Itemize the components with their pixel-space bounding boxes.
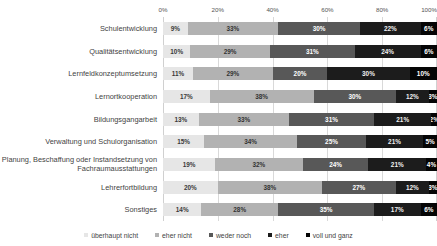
bar-segment: 21% (366, 135, 424, 148)
x-axis-tick-label: 40% (266, 6, 278, 13)
bar-segment: 30% (327, 67, 409, 80)
bar-segment: 29% (193, 67, 272, 80)
legend-swatch-icon (306, 233, 310, 237)
bar-segment: 21% (374, 113, 432, 126)
legend-swatch-icon (84, 233, 88, 237)
bar-row: 20%38%27%12%3% (163, 181, 437, 194)
bar-segment: 29% (190, 45, 269, 58)
bar-segment: 13% (163, 113, 199, 126)
legend-item[interactable]: eher (268, 232, 289, 239)
legend-label: überhaupt nicht (91, 232, 138, 239)
bar-segment: 34% (204, 135, 297, 148)
x-axis-tick-label: 60% (321, 6, 333, 13)
legend-swatch-icon (209, 233, 213, 237)
bar-segment: 24% (355, 45, 421, 58)
bar-segment: 6% (421, 22, 437, 35)
bar-segment: 33% (199, 113, 289, 126)
x-axis-tick-label: 100% (421, 6, 437, 13)
bar-segment: 5% (423, 135, 437, 148)
bar-segment: 9% (163, 22, 188, 35)
bar-segment: 31% (270, 45, 355, 58)
bar-segment: 17% (163, 90, 210, 103)
category-labels: SchulentwicklungQualitätsentwicklungLern… (0, 17, 160, 221)
bar-segment: 30% (314, 90, 396, 103)
category-label: Verwaltung und Schulorganisation (0, 137, 157, 146)
category-label: Lehrerfortbildung (0, 183, 157, 192)
bar-segment: 35% (278, 203, 374, 216)
bar-segment: 3% (429, 90, 437, 103)
category-label: Lernortkooperation (0, 92, 157, 101)
x-axis-tick-label: 80% (376, 6, 388, 13)
bar-segment: 28% (201, 203, 278, 216)
bar-row: 17%38%30%12%3% (163, 90, 437, 103)
legend-label: eher nicht (162, 232, 192, 239)
legend-swatch-icon (155, 233, 159, 237)
bar-row: 19%32%24%21%4% (163, 158, 437, 171)
bar-segment: 33% (188, 22, 278, 35)
bar-segment: 19% (163, 158, 215, 171)
bar-segment: 38% (218, 181, 322, 194)
bar-segment: 17% (374, 203, 421, 216)
legend-item[interactable]: voll und ganz (306, 232, 353, 239)
bar-row: 10%29%31%24%6% (163, 45, 437, 58)
bar-segment: 6% (421, 45, 437, 58)
category-label: Qualitätsentwicklung (0, 47, 157, 56)
legend-label: weder noch (216, 232, 251, 239)
x-axis-tick-label: 20% (212, 6, 224, 13)
category-label: Schulentwicklung (0, 24, 157, 33)
bar-row: 11%29%20%30%10% (163, 67, 437, 80)
bar-segment: 11% (163, 67, 193, 80)
x-axis-tick-label: 0% (159, 6, 168, 13)
bar-segment: 12% (396, 181, 429, 194)
bar-segment: 3% (429, 181, 437, 194)
bar-segment: 30% (278, 22, 360, 35)
bar-segment: 24% (303, 158, 369, 171)
legend-item[interactable]: weder noch (209, 232, 251, 239)
plot-area: 9%33%30%22%6%10%29%31%24%6%11%29%20%30%1… (163, 17, 437, 221)
bar-segment: 4% (426, 158, 437, 171)
legend-label: eher (275, 232, 289, 239)
bar-segment: 10% (163, 45, 190, 58)
chart-legend: überhaupt nichteher nichtweder nocheherv… (0, 228, 437, 242)
bar-segment: 38% (210, 90, 314, 103)
bar-row: 14%28%35%17%6% (163, 203, 437, 216)
bar-segment: 2% (431, 113, 436, 126)
bar-row: 13%33%31%21%2% (163, 113, 437, 126)
bar-segment: 32% (215, 158, 303, 171)
x-axis-ticks: 0%20%40%60%80%100% (163, 6, 437, 17)
bar-segment: 15% (163, 135, 204, 148)
bar-segment: 20% (273, 67, 328, 80)
bar-segment: 25% (297, 135, 366, 148)
legend-swatch-icon (268, 233, 272, 237)
bar-segment: 22% (360, 22, 420, 35)
bar-segment: 12% (396, 90, 429, 103)
bar-row: 15%34%25%21%5% (163, 135, 437, 148)
bar-segment: 14% (163, 203, 201, 216)
bar-rows: 9%33%30%22%6%10%29%31%24%6%11%29%20%30%1… (163, 17, 437, 221)
category-label: Lernfeldkonzeptumsetzung (0, 69, 157, 78)
bar-segment: 31% (289, 113, 374, 126)
category-label: Planung, Beschaffung oder Instandsetzung… (0, 155, 157, 173)
legend-item[interactable]: überhaupt nicht (84, 232, 138, 239)
category-label: Sonstiges (0, 205, 157, 214)
bar-row: 9%33%30%22%6% (163, 22, 437, 35)
bar-segment: 20% (163, 181, 218, 194)
legend-item[interactable]: eher nicht (155, 232, 192, 239)
bar-segment: 27% (322, 181, 396, 194)
chart-container: 0%20%40%60%80%100% 9%33%30%22%6%10%29%31… (0, 0, 437, 246)
legend-label: voll und ganz (313, 232, 353, 239)
bar-segment: 10% (410, 67, 437, 80)
category-label: Bildungsgangarbeit (0, 115, 157, 124)
bar-segment: 6% (421, 203, 437, 216)
bar-segment: 21% (368, 158, 426, 171)
